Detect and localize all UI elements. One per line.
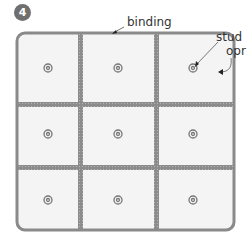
- binding-label: binding: [127, 15, 172, 29]
- stud-label: stud: [216, 30, 242, 44]
- quilt-diagram: [0, 0, 252, 242]
- sashing-horizontal-2: [18, 165, 233, 170]
- opr-label: opr: [226, 44, 246, 58]
- sashing-horizontal-1: [18, 102, 233, 107]
- sashing-vertical-1: [78, 34, 83, 229]
- sashing-vertical-2: [154, 34, 159, 229]
